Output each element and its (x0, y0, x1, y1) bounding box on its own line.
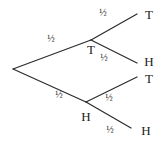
leaf-label-HT: T (145, 71, 153, 86)
branch-root-to-H (13, 69, 86, 102)
leaf-label-HH: H (141, 123, 150, 138)
prob-label-root-H: ½ (55, 89, 63, 100)
branch-root-to-T (13, 40, 91, 69)
branch-T-to-T (91, 14, 137, 40)
prob-label-root-T: ½ (47, 33, 55, 44)
probability-tree-diagram: T H ½ ½ T H T H ½ ½ ½ ½ (0, 0, 161, 142)
branch-T-to-H (91, 40, 137, 63)
node-label-T: T (87, 42, 95, 57)
node-label-H: H (81, 109, 90, 124)
leaf-label-TT: T (145, 7, 153, 22)
prob-label-HT: ½ (105, 92, 113, 103)
prob-label-TT: ½ (99, 7, 107, 18)
leaf-label-TH: H (144, 54, 153, 69)
prob-label-TH: ½ (100, 52, 108, 63)
prob-label-HH: ½ (106, 124, 114, 135)
